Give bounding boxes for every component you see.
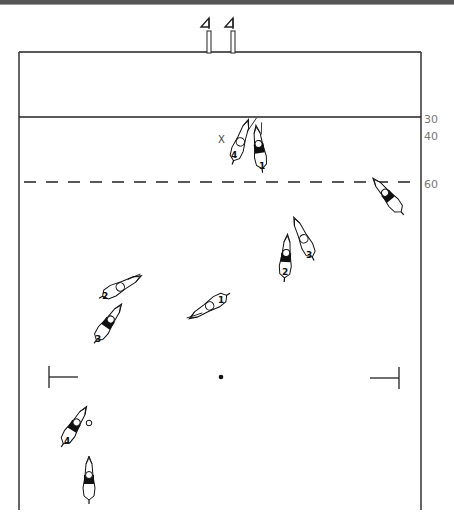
player-light-1 bbox=[184, 288, 233, 325]
left-penalty-marker bbox=[49, 366, 78, 388]
player-number: 1 bbox=[218, 295, 224, 305]
player-dark-4 bbox=[56, 403, 92, 450]
player-dark-bottom bbox=[83, 456, 95, 504]
left-goal-post bbox=[201, 18, 211, 53]
player-number: 3 bbox=[306, 250, 312, 260]
right-goal-post bbox=[225, 18, 235, 53]
player-number: 3 bbox=[95, 334, 101, 344]
yard-label-30: 30 bbox=[424, 113, 438, 126]
player-number: 4 bbox=[64, 436, 70, 446]
player-number: 2 bbox=[102, 291, 108, 301]
goal-flag-icon bbox=[201, 18, 209, 27]
center-spot bbox=[219, 375, 224, 380]
ball-position-mark: X bbox=[218, 134, 225, 145]
player-number: 2 bbox=[282, 267, 288, 277]
right-penalty-marker bbox=[370, 367, 399, 389]
goal-flag-icon bbox=[225, 18, 233, 27]
player-dark-right bbox=[368, 174, 408, 218]
player-number: 4 bbox=[231, 150, 237, 160]
yard-label-40: 40 bbox=[424, 130, 438, 143]
polo-ball bbox=[86, 420, 92, 426]
yard-label-60: 60 bbox=[424, 178, 438, 191]
player-light-3 bbox=[288, 215, 319, 264]
player-number: 1 bbox=[259, 161, 265, 171]
polo-field-diagram: 30 40 60 X 4 1 bbox=[0, 0, 454, 529]
